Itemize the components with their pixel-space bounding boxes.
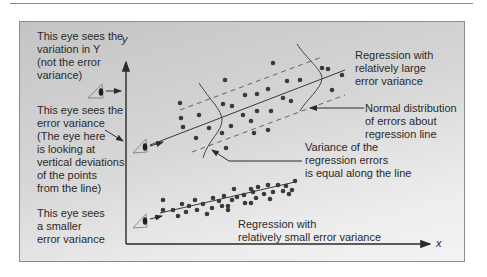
eye-bottom-label: This eye sees a smaller error variance bbox=[37, 207, 105, 246]
small-variance-points bbox=[161, 179, 298, 219]
eye-icon-top bbox=[88, 84, 121, 98]
large-regression-label: Regression with relatively large error v… bbox=[355, 49, 433, 88]
eye-icon-bottom bbox=[133, 214, 162, 228]
large-variance-points bbox=[178, 61, 345, 151]
eye-top-label: This eye sees the variation in Y (not th… bbox=[37, 30, 123, 82]
normal-dist-label: Normal distribution of errors about regr… bbox=[365, 102, 457, 141]
variance-equal-label: Variance of the regression errors is equ… bbox=[305, 141, 411, 180]
eye-middle-label: This eye sees the error variance (The ey… bbox=[37, 104, 124, 195]
variance-equal-arrow bbox=[212, 150, 302, 161]
y-axis-label: y bbox=[122, 33, 128, 45]
small-regression-label: Regression with relatively small error v… bbox=[238, 218, 381, 244]
small-variance-regression bbox=[160, 179, 297, 219]
x-axis-label: x bbox=[436, 237, 442, 249]
eye-icon-middle bbox=[133, 139, 163, 153]
